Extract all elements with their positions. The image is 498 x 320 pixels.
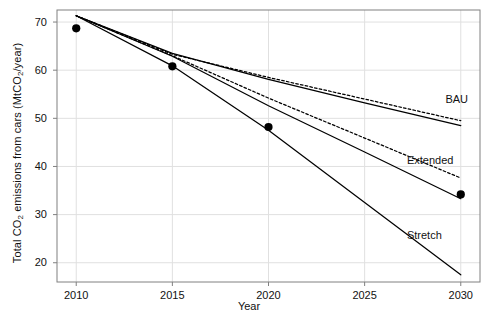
y-tick-label: 50 <box>13 113 47 124</box>
data-point-marker <box>168 62 176 70</box>
series-label-extended: Extended <box>407 155 453 166</box>
x-tick-label: 2020 <box>239 290 299 301</box>
y-tick-label: 70 <box>13 17 47 28</box>
x-tick-label: 2025 <box>335 290 395 301</box>
data-point-marker <box>457 190 465 198</box>
x-tick-label: 2010 <box>46 290 106 301</box>
tick-marks <box>53 22 461 286</box>
x-tick-label: 2015 <box>142 290 202 301</box>
data-point-marker <box>72 24 80 32</box>
y-tick-label: 30 <box>13 209 47 220</box>
x-tick-label: 2030 <box>431 290 491 301</box>
y-tick-label: 60 <box>13 65 47 76</box>
y-tick-label: 40 <box>13 161 47 172</box>
data-point-marker <box>264 123 272 131</box>
chart-figure: Total CO2 emissions from cars (MtCO2/yea… <box>0 0 498 320</box>
y-tick-label: 20 <box>13 257 47 268</box>
series-label-bau: BAU <box>445 94 468 105</box>
series-label-stretch: Stretch <box>407 230 442 241</box>
